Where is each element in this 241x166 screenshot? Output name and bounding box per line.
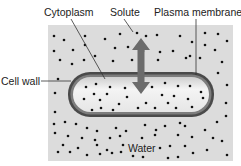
solute-dot bbox=[106, 149, 109, 152]
solute-dot bbox=[214, 49, 217, 52]
solute-dot bbox=[125, 130, 128, 133]
solute-dot bbox=[85, 86, 88, 89]
solute-dot bbox=[141, 137, 144, 140]
solute-dot bbox=[53, 50, 56, 53]
solute-dot bbox=[112, 60, 115, 63]
solute-dot bbox=[53, 123, 56, 126]
solute-dot bbox=[157, 59, 160, 62]
solute-dot bbox=[57, 78, 60, 81]
label-cytoplasm: Cytoplasm bbox=[44, 6, 94, 18]
solute-dot bbox=[84, 35, 87, 38]
solute-dot bbox=[192, 152, 195, 155]
label-water: Water bbox=[128, 142, 156, 154]
solute-dot bbox=[71, 63, 74, 66]
solute-dot bbox=[77, 147, 80, 150]
solute-dot bbox=[67, 135, 70, 138]
solute-dot bbox=[95, 83, 98, 86]
solute-dot bbox=[83, 98, 86, 101]
solute-dot bbox=[96, 144, 99, 147]
solute-dot bbox=[91, 109, 94, 112]
solute-dot bbox=[119, 33, 122, 36]
solute-dot bbox=[216, 121, 219, 124]
solute-dot bbox=[177, 85, 180, 88]
solute-dot bbox=[124, 87, 127, 90]
solute-dot bbox=[175, 107, 178, 110]
solute-dot bbox=[155, 129, 158, 132]
solute-dot bbox=[179, 122, 182, 125]
solute-dot bbox=[154, 134, 157, 137]
solute-dot bbox=[184, 145, 187, 148]
solute-dot bbox=[62, 144, 65, 147]
solute-dot bbox=[142, 156, 145, 159]
solute-dot bbox=[59, 59, 62, 62]
solute-dot bbox=[109, 137, 112, 140]
solute-dot bbox=[111, 152, 114, 155]
solute-dot bbox=[132, 155, 135, 158]
solute-dot bbox=[204, 32, 207, 35]
solute-dot bbox=[185, 57, 188, 60]
solute-dot bbox=[83, 59, 86, 62]
solute-dot bbox=[167, 102, 170, 105]
solute-dot bbox=[72, 49, 75, 52]
solute-dot bbox=[225, 115, 228, 118]
solute-dot bbox=[127, 46, 130, 49]
solute-dot bbox=[172, 50, 175, 53]
solute-dot bbox=[156, 34, 159, 37]
solute-dot bbox=[161, 94, 164, 97]
solute-dot bbox=[94, 55, 97, 58]
solute-dot bbox=[122, 144, 125, 147]
solute-dot bbox=[106, 93, 109, 96]
label-plasma-membrane: Plasma membrane bbox=[154, 6, 241, 18]
label-solute: Solute bbox=[110, 6, 140, 18]
solute-dot bbox=[63, 39, 66, 42]
solute-dot bbox=[159, 147, 162, 150]
solute-dot bbox=[189, 55, 192, 58]
solute-dot bbox=[204, 44, 207, 47]
solute-dot bbox=[104, 38, 107, 41]
solute-dot bbox=[54, 92, 57, 95]
solute-dot bbox=[145, 102, 148, 105]
solute-dot bbox=[144, 124, 147, 127]
solute-dot bbox=[131, 59, 134, 62]
solute-dot bbox=[179, 35, 182, 38]
solute-dot bbox=[191, 41, 194, 44]
solute-dot bbox=[99, 99, 102, 102]
solute-dot bbox=[177, 134, 180, 137]
solute-dot bbox=[164, 82, 167, 85]
solute-dot bbox=[169, 145, 172, 148]
solute-dot bbox=[173, 95, 176, 98]
solute-dot bbox=[191, 106, 194, 109]
solute-dot bbox=[94, 139, 97, 142]
solute-dot bbox=[217, 72, 220, 75]
solute-dot bbox=[53, 35, 56, 38]
label-cell-wall: Cell wall bbox=[1, 75, 40, 87]
solute-dot bbox=[187, 98, 190, 101]
solute-dot bbox=[221, 61, 224, 64]
solute-dot bbox=[69, 151, 72, 154]
solute-dot bbox=[99, 153, 102, 156]
solute-dot bbox=[164, 125, 167, 128]
solute-dot bbox=[226, 84, 229, 87]
cell-diagram: Cytoplasm Solute Plasma membrane Cell wa… bbox=[0, 0, 241, 166]
solute-dot bbox=[184, 125, 187, 128]
solute-dot bbox=[177, 156, 180, 159]
solute-dot bbox=[137, 107, 140, 110]
solute-dot bbox=[96, 130, 99, 133]
solute-dot bbox=[119, 135, 122, 138]
solute-dot bbox=[136, 32, 139, 35]
solute-dot bbox=[189, 85, 192, 88]
solute-dot bbox=[109, 86, 112, 89]
solute-dot bbox=[93, 93, 96, 96]
solute-dot bbox=[145, 35, 148, 38]
solute-dot bbox=[54, 111, 57, 114]
solute-dot bbox=[114, 47, 117, 50]
solute-dot bbox=[200, 91, 203, 94]
solute-dot bbox=[112, 109, 115, 112]
solute-dot bbox=[115, 127, 118, 130]
solute-dot bbox=[57, 151, 60, 154]
solute-dot bbox=[118, 103, 121, 106]
solute-dot bbox=[86, 154, 89, 157]
solute-dot bbox=[151, 86, 154, 89]
solute-dot bbox=[226, 40, 229, 43]
solute-dot bbox=[54, 132, 57, 135]
